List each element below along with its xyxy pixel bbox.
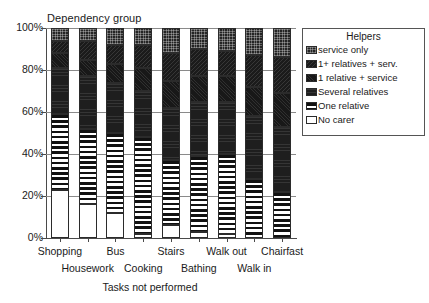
x-tick-mark bbox=[143, 238, 144, 242]
legend-swatch-icon bbox=[306, 116, 317, 124]
bar-segment bbox=[80, 129, 96, 205]
bar-segment bbox=[274, 127, 290, 192]
bar-segment bbox=[219, 76, 235, 101]
bar-segment bbox=[246, 28, 262, 55]
x-tick-mark bbox=[227, 238, 228, 242]
bar-segment bbox=[219, 51, 235, 76]
legend-swatch-icon bbox=[306, 102, 317, 110]
x-tick-mark bbox=[115, 238, 116, 242]
bar-segment bbox=[80, 76, 96, 129]
legend-item-one-relative[interactable]: One relative bbox=[303, 99, 424, 113]
bar-segment bbox=[163, 108, 179, 161]
bar-segment bbox=[107, 133, 123, 213]
bar-segment bbox=[246, 116, 262, 179]
bar-segment bbox=[274, 192, 290, 238]
bar-cooking[interactable] bbox=[134, 28, 152, 238]
legend-item-label: One relative bbox=[318, 101, 369, 111]
bar-segment bbox=[52, 190, 68, 238]
legend-item-label: No carer bbox=[318, 115, 354, 125]
plot-area bbox=[46, 28, 296, 238]
legend-item-1-relatives-serv[interactable]: 1+ relatives + serv. bbox=[303, 57, 424, 71]
bar-segment bbox=[135, 28, 151, 45]
bar-segment bbox=[191, 28, 207, 49]
bar-segment bbox=[163, 225, 179, 238]
legend-item-no-carer[interactable]: No carer bbox=[303, 113, 424, 127]
bar-walk-out[interactable] bbox=[218, 28, 236, 238]
bar-segment bbox=[52, 53, 68, 68]
legend: Helpers service only1+ relatives + serv.… bbox=[302, 28, 425, 136]
legend-item-label: Several relatives bbox=[318, 87, 388, 97]
x-tick-mark bbox=[199, 238, 200, 242]
bar-segment bbox=[219, 28, 235, 51]
x-axis-title: Tasks not performed bbox=[0, 281, 300, 293]
bar-segment bbox=[191, 156, 207, 232]
bar-segment bbox=[80, 204, 96, 238]
x-tick-label: Walk in bbox=[214, 262, 294, 274]
x-tick-mark bbox=[282, 238, 283, 242]
bar-segment bbox=[52, 28, 68, 41]
bar-segment bbox=[107, 83, 123, 133]
y-tick-label: 80% bbox=[1, 63, 43, 75]
bar-housework[interactable] bbox=[79, 28, 97, 238]
bar-segment bbox=[135, 91, 151, 137]
bar-segment bbox=[135, 137, 151, 234]
bar-segment bbox=[246, 87, 262, 116]
x-tick-mark bbox=[171, 238, 172, 242]
bar-segment bbox=[219, 154, 235, 234]
legend-swatch-icon bbox=[306, 74, 317, 82]
bar-segment bbox=[80, 28, 96, 41]
bar-chairfast[interactable] bbox=[273, 28, 291, 238]
bar-stairs[interactable] bbox=[162, 28, 180, 238]
x-tick-mark bbox=[88, 238, 89, 242]
bar-segment bbox=[107, 213, 123, 238]
plot-title: Dependency group bbox=[47, 12, 142, 24]
legend-item-label: service only bbox=[318, 45, 368, 55]
bar-segment bbox=[246, 179, 262, 238]
bar-segment bbox=[52, 68, 68, 114]
bar-segment bbox=[163, 81, 179, 108]
bar-segment bbox=[135, 45, 151, 68]
bar-segment bbox=[107, 28, 123, 45]
bar-segment bbox=[274, 57, 290, 93]
legend-item-service-only[interactable]: service only bbox=[303, 43, 424, 57]
x-tick-mark bbox=[254, 238, 255, 242]
y-tick-label: 20% bbox=[1, 189, 43, 201]
bar-bathing[interactable] bbox=[190, 28, 208, 238]
bar-segment bbox=[163, 53, 179, 80]
bar-segment bbox=[191, 102, 207, 157]
legend-item-several-relatives[interactable]: Several relatives bbox=[303, 85, 424, 99]
legend-item-1-relative-service[interactable]: 1 relative + service bbox=[303, 71, 424, 85]
bar-bus[interactable] bbox=[106, 28, 124, 238]
bar-segment bbox=[191, 76, 207, 101]
x-tick-label: Chairfast bbox=[242, 245, 322, 257]
legend-swatch-icon bbox=[306, 60, 317, 68]
bar-walk-in[interactable] bbox=[245, 28, 263, 238]
bar-shopping[interactable] bbox=[51, 28, 69, 238]
chart-figure: Dependency group 0%20%40%60%80%100% Shop… bbox=[0, 0, 429, 303]
y-tick-label: 40% bbox=[1, 147, 43, 159]
bar-segment bbox=[191, 49, 207, 76]
bar-segment bbox=[163, 28, 179, 53]
bar-segment bbox=[80, 41, 96, 60]
bar-segment bbox=[219, 102, 235, 155]
legend-item-label: 1 relative + service bbox=[318, 73, 397, 83]
y-tick-label: 100% bbox=[1, 21, 43, 33]
bar-segment bbox=[52, 41, 68, 54]
legend-swatch-icon bbox=[306, 88, 317, 96]
y-axis: 0%20%40%60%80%100% bbox=[0, 0, 43, 303]
legend-swatch-icon bbox=[306, 46, 317, 54]
y-tick-label: 0% bbox=[1, 231, 43, 243]
bar-segment bbox=[135, 68, 151, 91]
bar-segment bbox=[274, 93, 290, 127]
legend-title: Helpers bbox=[303, 31, 424, 42]
y-tick-label: 60% bbox=[1, 105, 43, 117]
x-tick-mark bbox=[60, 238, 61, 242]
bar-segment bbox=[163, 160, 179, 225]
legend-item-label: 1+ relatives + serv. bbox=[318, 59, 398, 69]
bar-segment bbox=[246, 55, 262, 87]
bar-segment bbox=[80, 60, 96, 77]
bar-segment bbox=[107, 64, 123, 83]
bar-segment bbox=[274, 28, 290, 57]
bar-segment bbox=[107, 45, 123, 64]
legend-items: service only1+ relatives + serv.1 relati… bbox=[303, 43, 424, 127]
